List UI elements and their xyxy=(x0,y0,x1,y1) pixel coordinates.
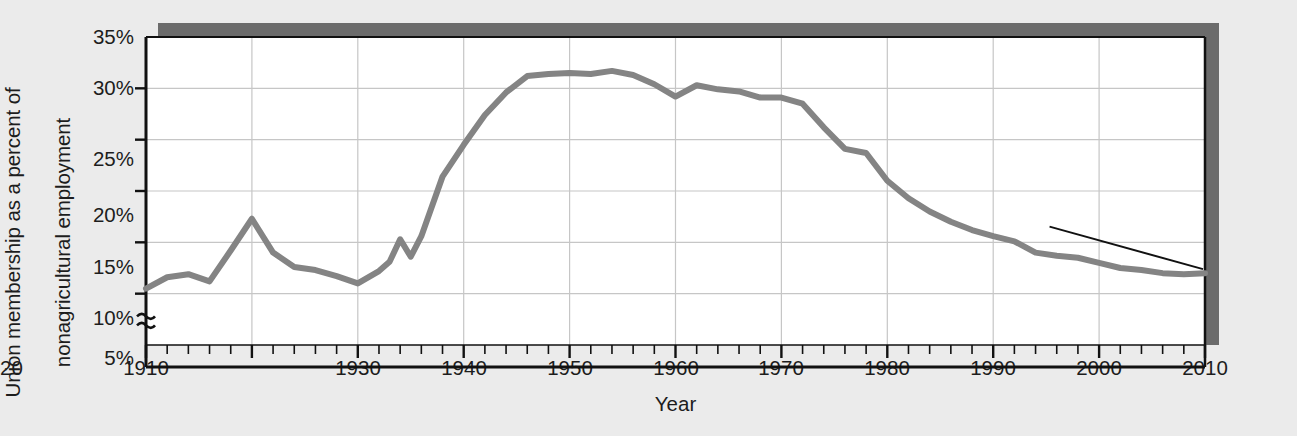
chart-figure: Union membership as a percent of nonagri… xyxy=(0,0,1297,436)
plot-canvas xyxy=(0,0,1297,436)
